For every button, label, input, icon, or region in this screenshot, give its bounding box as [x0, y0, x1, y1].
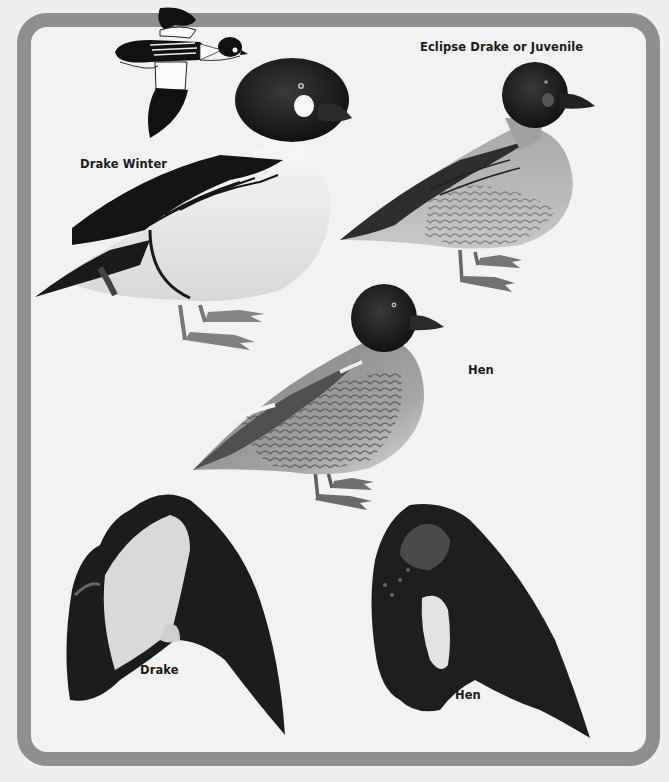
illustration-canvas	[0, 0, 669, 782]
label-wing-drake: Drake	[140, 663, 179, 677]
drake-wing-illustration	[66, 494, 285, 735]
hen-wing-illustration	[372, 504, 591, 738]
label-wing-hen: Hen	[455, 688, 481, 702]
label-drake-winter: Drake Winter	[80, 157, 167, 171]
label-hen: Hen	[468, 363, 494, 377]
drake-winter-illustration	[35, 58, 352, 350]
label-eclipse-drake: Eclipse Drake or Juvenile	[420, 40, 583, 54]
eclipse-drake-illustration	[340, 62, 595, 292]
flying-duck-silhouette	[115, 8, 248, 139]
